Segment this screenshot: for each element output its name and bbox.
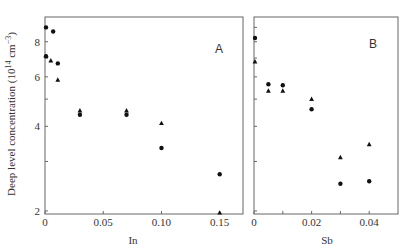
x-tick-label: 0.10	[152, 216, 172, 228]
chart-figure: 00.050.100.152468 00.020.04 Deep level c…	[0, 0, 409, 251]
x-tick-label: 0	[251, 216, 257, 228]
data-point-circle	[159, 146, 163, 150]
panel-label-b: B	[369, 37, 377, 51]
x-axis-title-in: In	[128, 234, 138, 246]
x-tick-label: 0.04	[360, 216, 380, 228]
panel-a: 00.050.100.152468	[35, 17, 244, 228]
data-point-triangle	[253, 59, 258, 63]
data-point-triangle	[55, 77, 60, 81]
data-point-triangle	[266, 88, 271, 92]
panel-label-a: A	[215, 42, 223, 56]
data-point-circle	[338, 181, 342, 185]
data-point-circle	[51, 29, 55, 33]
plot-frame	[45, 17, 243, 214]
y-tick-label: 8	[35, 36, 41, 48]
data-point-circle	[281, 83, 285, 87]
y-tick-label: 6	[35, 71, 41, 83]
x-axis-title-sb: Sb	[321, 234, 333, 246]
data-point-circle	[124, 113, 128, 117]
data-point-triangle	[367, 142, 372, 146]
x-tick-label: 0.05	[94, 216, 114, 228]
data-point-circle	[367, 179, 371, 183]
y-tick-label: 2	[35, 205, 41, 217]
data-point-triangle	[338, 155, 343, 159]
data-point-triangle	[48, 58, 53, 62]
data-point-triangle	[280, 88, 285, 92]
data-point-circle	[44, 25, 48, 29]
data-point-circle	[56, 61, 60, 65]
data-point-triangle	[309, 97, 314, 101]
data-point-circle	[218, 172, 222, 176]
y-axis-title: Deep level concentration (1014 cm−3)	[4, 32, 18, 196]
data-point-circle	[309, 107, 313, 111]
data-point-triangle	[159, 121, 164, 125]
data-point-circle	[266, 82, 270, 86]
data-point-circle	[78, 113, 82, 117]
data-point-triangle	[78, 108, 83, 112]
data-point-triangle	[124, 108, 129, 112]
y-tick-label: 4	[35, 120, 41, 132]
data-point-triangle	[217, 210, 222, 214]
x-tick-label: 0.02	[302, 216, 321, 228]
x-tick-label: 0	[42, 216, 48, 228]
x-tick-label: 0.15	[210, 216, 230, 228]
data-point-circle	[253, 36, 257, 40]
